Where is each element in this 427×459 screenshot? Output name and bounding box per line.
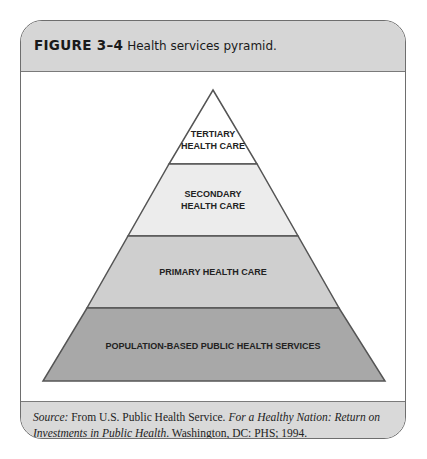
source-label: Source: [33, 411, 68, 423]
source-text-1: From U.S. Public Health Service. [68, 411, 228, 423]
figure-header: FIGURE 3–4Health services pyramid. [21, 21, 405, 72]
source-caption: Source: From U.S. Public Health Service.… [21, 401, 405, 438]
primary-label: PRIMARY HEALTH CARE [159, 267, 266, 277]
figure-frame: FIGURE 3–4Health services pyramid. TERTI… [20, 20, 406, 439]
figure-title: Health services pyramid. [127, 39, 277, 53]
tertiary-label-2: HEALTH CARE [181, 141, 245, 151]
pyramid-level-tertiary [169, 90, 257, 164]
secondary-label-1: SECONDARY [184, 189, 241, 199]
diagram-area: TERTIARY HEALTH CARE SECONDARY HEALTH CA… [21, 72, 405, 401]
pyramid-level-secondary [128, 164, 298, 236]
tertiary-label-1: TERTIARY [191, 129, 236, 139]
secondary-label-2: HEALTH CARE [181, 201, 245, 211]
source-text-2: . Washington, DC: PHS; 1994. [166, 427, 307, 439]
figure-caption-title: FIGURE 3–4Health services pyramid. [34, 37, 277, 53]
figure-number: FIGURE 3–4 [34, 37, 123, 53]
health-pyramid: TERTIARY HEALTH CARE SECONDARY HEALTH CA… [21, 72, 406, 401]
population-label: POPULATION-BASED PUBLIC HEALTH SERVICES [105, 341, 320, 351]
